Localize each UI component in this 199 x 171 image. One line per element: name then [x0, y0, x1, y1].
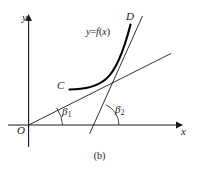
point-label-c: C — [57, 80, 64, 91]
origin-label: O — [17, 125, 25, 136]
figure-caption: (b) — [0, 150, 199, 161]
y-axis — [25, 14, 32, 147]
angle-label-beta2-symbol: β — [115, 103, 120, 115]
angle-label-beta1: β1 — [62, 106, 71, 118]
figure-container: y x O C D y=f(x) β1 β2 (b) — [0, 0, 199, 171]
angle-label-beta2-subscript: 2 — [121, 108, 125, 117]
function-label: y=f(x) — [86, 27, 110, 37]
angle-label-beta2: β2 — [115, 104, 124, 116]
point-label-d: D — [126, 11, 134, 22]
angle-label-beta1-subscript: 1 — [68, 110, 72, 119]
y-axis-label: y — [22, 12, 27, 23]
function-label-close-paren: ) — [107, 26, 110, 37]
secant-line — [29, 54, 171, 126]
angle-label-beta1-symbol: β — [62, 105, 67, 117]
x-axis-label: x — [181, 126, 186, 137]
